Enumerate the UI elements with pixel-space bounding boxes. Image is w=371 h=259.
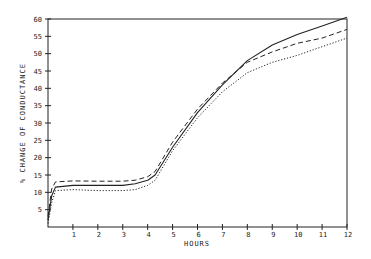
y-tick-label: 10: [34, 189, 42, 197]
x-tick-label: 10: [294, 231, 302, 239]
x-tick-label: 7: [221, 231, 225, 239]
y-tick-label: 55: [34, 33, 42, 41]
y-tick-label: 50: [34, 50, 42, 58]
x-axis-label: HOURS: [184, 240, 210, 248]
chart: 123456789101112 51015202530354045505560 …: [0, 0, 371, 259]
x-tick-label: 9: [271, 231, 275, 239]
x-axis-ticks: 123456789101112: [72, 224, 352, 239]
x-tick-label: 5: [171, 231, 175, 239]
x-tick-label: 11: [319, 231, 327, 239]
y-tick-label: 25: [34, 137, 42, 145]
y-tick-label: 5: [38, 206, 42, 214]
y-tick-label: 15: [34, 172, 42, 180]
x-tick-label: 4: [147, 231, 151, 239]
series-dotted-line: [48, 38, 347, 223]
y-tick-label: 30: [34, 120, 42, 128]
x-tick-label: 8: [246, 231, 250, 239]
y-tick-label: 40: [34, 85, 42, 93]
x-tick-label: 1: [72, 231, 76, 239]
y-tick-label: 45: [34, 68, 42, 76]
series-lines: [48, 17, 347, 223]
x-tick-label: 3: [122, 231, 126, 239]
series-dashed-line: [48, 29, 347, 216]
series-solid-line: [48, 17, 347, 220]
axes: [48, 19, 347, 227]
y-tick-label: 60: [34, 16, 42, 24]
x-tick-label: 2: [97, 231, 101, 239]
y-tick-label: 20: [34, 154, 42, 162]
x-tick-label: 12: [344, 231, 352, 239]
x-tick-label: 6: [196, 231, 200, 239]
y-tick-label: 35: [34, 102, 42, 110]
y-axis-label: % CHANGE OF CONDUCTANCE: [19, 63, 27, 183]
